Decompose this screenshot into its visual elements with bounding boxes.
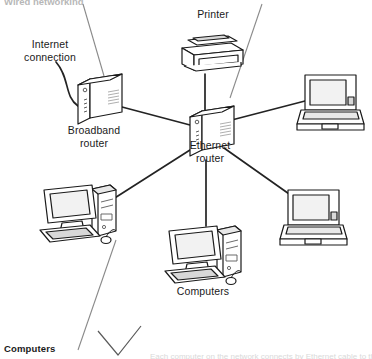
laptop-top-right-icon — [297, 75, 364, 130]
laptop-bottom-right-icon — [280, 190, 347, 245]
label-broadband-router: Broadband router — [44, 124, 144, 149]
link-ethernet-to-broadband — [122, 107, 190, 125]
laptop-top-right-keyboard — [303, 112, 359, 119]
broadband-router-left-face — [78, 79, 90, 124]
label-ethernet-router: Ethernet router — [160, 139, 260, 164]
desktop-center-monitor-screen — [175, 231, 215, 259]
laptop-bottom-right-latch — [331, 212, 337, 220]
laptop-bottom-right-keyboard — [286, 227, 342, 234]
label-computers-middle: Computers — [148, 285, 258, 298]
leader-line-bottom-left — [78, 240, 116, 350]
broadband-router-icon — [78, 74, 122, 124]
desktop-left-icon — [40, 185, 116, 244]
laptop-bottom-right-screen — [293, 195, 329, 220]
label-printer: Printer — [170, 8, 256, 21]
printer-icon — [182, 35, 243, 71]
laptop-top-right-latch — [348, 97, 354, 105]
desktop-left-monitor-screen — [50, 190, 90, 218]
label-internet-connection: Internet connection — [2, 38, 98, 63]
network-diagram-page: Wired networking — [0, 0, 372, 359]
label-computers-callout: Computers — [4, 343, 124, 356]
link-ethernet-to-laptop-top-right — [224, 101, 305, 122]
clipped-caption-bottom: Each computer on the network connects by… — [150, 352, 372, 359]
laptop-top-right-touchpad — [322, 124, 338, 129]
laptop-bottom-right-touchpad — [305, 239, 321, 244]
laptop-top-right-screen — [310, 80, 346, 105]
desktop-center-icon — [165, 226, 241, 285]
